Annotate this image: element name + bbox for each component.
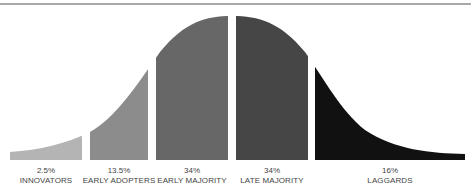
- label-early-majority: 34% EARLY MAJORITY: [156, 166, 228, 186]
- innovators-percent: 2.5%: [10, 166, 82, 176]
- segment-early-adopters: [90, 0, 148, 160]
- laggards-percent: 16%: [315, 166, 465, 176]
- segment-laggards: [315, 0, 465, 160]
- early-adopters-percent: 13.5%: [80, 166, 158, 176]
- late-majority-name: LATE MAJORITY: [236, 176, 308, 186]
- innovators-name: INNOVATORS: [10, 176, 82, 186]
- early-adopters-name: EARLY ADOPTERS: [80, 176, 158, 186]
- label-late-majority: 34% LATE MAJORITY: [236, 166, 308, 186]
- segment-innovators: [10, 0, 82, 160]
- bell-curve-chart: [0, 0, 471, 192]
- label-laggards: 16% LAGGARDS: [315, 166, 465, 186]
- laggards-name: LAGGARDS: [315, 176, 465, 186]
- label-innovators: 2.5% INNOVATORS: [10, 166, 82, 186]
- segment-late-majority: [236, 0, 308, 160]
- early-majority-name: EARLY MAJORITY: [156, 176, 228, 186]
- segment-early-majority: [156, 0, 228, 160]
- early-majority-percent: 34%: [156, 166, 228, 176]
- label-early-adopters: 13.5% EARLY ADOPTERS: [80, 166, 158, 186]
- late-majority-percent: 34%: [236, 166, 308, 176]
